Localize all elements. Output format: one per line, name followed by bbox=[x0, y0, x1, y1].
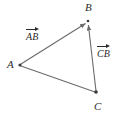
vertex-label-a: A bbox=[7, 59, 14, 70]
vector-label-cb: CB bbox=[97, 44, 110, 59]
triangle-diagram-canvas bbox=[0, 0, 123, 123]
vertex-point-b bbox=[87, 20, 90, 23]
vertex-label-c: C bbox=[94, 101, 101, 112]
vector-label-ab: AB bbox=[26, 27, 39, 42]
vector-arrow-overbar-ab bbox=[26, 27, 39, 32]
vertex-point-a bbox=[18, 63, 21, 66]
segment-ac bbox=[21, 66, 95, 92]
vertex-point-c bbox=[94, 90, 98, 94]
vector-label-cb-text: CB bbox=[97, 49, 110, 59]
vertex-label-b: B bbox=[85, 2, 92, 13]
vector-triangle-figure: A B C AB CB bbox=[0, 0, 123, 123]
segment-cb bbox=[88, 25, 96, 91]
vector-label-ab-text: AB bbox=[26, 32, 39, 42]
vector-arrow-overbar-cb bbox=[97, 44, 110, 49]
